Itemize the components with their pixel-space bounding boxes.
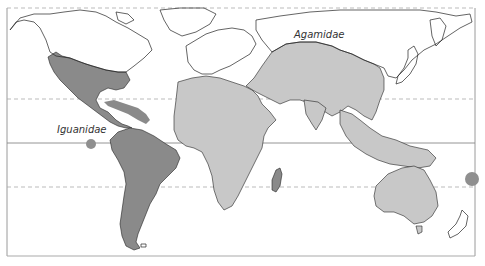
kamchatka-outline bbox=[430, 18, 446, 46]
japan-outline bbox=[396, 46, 418, 84]
galapagos-dot bbox=[86, 139, 96, 149]
southeast-asia-range bbox=[340, 110, 436, 168]
australia-range bbox=[374, 166, 438, 224]
iguanidae-label: Iguanidae bbox=[57, 124, 107, 135]
fiji-tonga-dot bbox=[465, 172, 479, 186]
africa-range bbox=[174, 76, 276, 210]
greenland-outline bbox=[160, 8, 216, 36]
falklands-outline bbox=[141, 244, 146, 247]
madagascar-range bbox=[272, 168, 282, 192]
new-zealand-outline bbox=[448, 210, 468, 238]
arctic-islands-outline bbox=[116, 12, 134, 24]
tasmania-range bbox=[416, 226, 422, 234]
agamidae-range bbox=[174, 42, 438, 234]
north-america-range bbox=[48, 52, 132, 128]
agamidae-label: Agamidae bbox=[294, 29, 344, 40]
europe-outline bbox=[186, 28, 256, 74]
south-america-range bbox=[110, 128, 180, 250]
